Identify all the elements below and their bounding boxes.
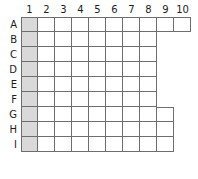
grid-cell-H3[interactable] <box>55 122 72 137</box>
grid-cell-H4[interactable] <box>72 122 89 137</box>
grid-cell-G2[interactable] <box>38 107 55 122</box>
grid-cell-A7[interactable] <box>123 17 140 32</box>
grid-cell-D7[interactable] <box>123 62 140 77</box>
grid-row-E <box>21 77 157 92</box>
grid-cell-C1[interactable] <box>21 47 38 62</box>
grid-cell-C4[interactable] <box>72 47 89 62</box>
column-header-1: 1 <box>21 4 38 16</box>
row-label-G: G <box>0 107 17 122</box>
grid-cell-C7[interactable] <box>123 47 140 62</box>
grid-cell-H2[interactable] <box>38 122 55 137</box>
grid-cell-F6[interactable] <box>106 92 123 107</box>
row-label-E: E <box>0 77 17 92</box>
grid-cell-H1[interactable] <box>21 122 38 137</box>
grid-cell-I2[interactable] <box>38 137 55 152</box>
row-label-I: I <box>0 137 17 152</box>
row-label-D: D <box>0 62 17 77</box>
column-header-4: 4 <box>72 4 89 16</box>
grid-cell-I7[interactable] <box>123 137 140 152</box>
grid-cell-B4[interactable] <box>72 32 89 47</box>
grid-cell-F5[interactable] <box>89 92 106 107</box>
row-label-H: H <box>0 122 17 137</box>
grid-cell-I3[interactable] <box>55 137 72 152</box>
grid-cell-A1[interactable] <box>21 17 38 32</box>
grid-cell-D5[interactable] <box>89 62 106 77</box>
grid-cell-G4[interactable] <box>72 107 89 122</box>
row-label-B: B <box>0 32 17 47</box>
grid-cell-G3[interactable] <box>55 107 72 122</box>
grid-cell-I8[interactable] <box>140 137 157 152</box>
grid-cell-A10[interactable] <box>174 17 191 32</box>
grid-cell-I1[interactable] <box>21 137 38 152</box>
grid-cell-B7[interactable] <box>123 32 140 47</box>
grid-cell-A8[interactable] <box>140 17 157 32</box>
grid-cell-I4[interactable] <box>72 137 89 152</box>
grid-cell-A5[interactable] <box>89 17 106 32</box>
grid-cell-C2[interactable] <box>38 47 55 62</box>
grid-cell-H8[interactable] <box>140 122 157 137</box>
grid-row-D <box>21 62 157 77</box>
grid-cell-F1[interactable] <box>21 92 38 107</box>
grid-cell-G5[interactable] <box>89 107 106 122</box>
grid-cell-B2[interactable] <box>38 32 55 47</box>
row-label-C: C <box>0 47 17 62</box>
grid-cell-H5[interactable] <box>89 122 106 137</box>
grid-cell-C3[interactable] <box>55 47 72 62</box>
column-header-7: 7 <box>123 4 140 16</box>
grid-cell-G1[interactable] <box>21 107 38 122</box>
grid-cell-H7[interactable] <box>123 122 140 137</box>
grid-cell-B3[interactable] <box>55 32 72 47</box>
grid-cell-G8[interactable] <box>140 107 157 122</box>
grid-cell-I6[interactable] <box>106 137 123 152</box>
grid-cell-C8[interactable] <box>140 47 157 62</box>
grid-cell-H6[interactable] <box>106 122 123 137</box>
grid-cell-E8[interactable] <box>140 77 157 92</box>
grid-cell-D3[interactable] <box>55 62 72 77</box>
grid-cell-D1[interactable] <box>21 62 38 77</box>
grid-cell-G6[interactable] <box>106 107 123 122</box>
grid-cell-D8[interactable] <box>140 62 157 77</box>
grid-cell-B1[interactable] <box>21 32 38 47</box>
column-header-9: 9 <box>157 4 174 16</box>
row-label-A: A <box>0 17 17 32</box>
column-header-2: 2 <box>38 4 55 16</box>
grid-cell-A2[interactable] <box>38 17 55 32</box>
row-label-column: ABCDEFGHI <box>0 0 19 179</box>
grid-cell-C6[interactable] <box>106 47 123 62</box>
grid-cell-A9[interactable] <box>157 17 174 32</box>
grid-cell-F2[interactable] <box>38 92 55 107</box>
row-label-F: F <box>0 92 17 107</box>
grid-cell-G9[interactable] <box>157 107 174 122</box>
grid-row-G <box>21 107 174 122</box>
grid-cell-A3[interactable] <box>55 17 72 32</box>
grid-cell-E2[interactable] <box>38 77 55 92</box>
grid-cell-B6[interactable] <box>106 32 123 47</box>
grid-cell-A6[interactable] <box>106 17 123 32</box>
grid-cell-H9[interactable] <box>157 122 174 137</box>
grid-cell-B8[interactable] <box>140 32 157 47</box>
grid-cell-I9[interactable] <box>157 137 174 152</box>
grid-cell-G7[interactable] <box>123 107 140 122</box>
grid-cell-B5[interactable] <box>89 32 106 47</box>
grid-row-I <box>21 137 174 152</box>
column-header-10: 10 <box>174 4 191 16</box>
grid-cell-C5[interactable] <box>89 47 106 62</box>
grid-cell-D6[interactable] <box>106 62 123 77</box>
grid-cell-A4[interactable] <box>72 17 89 32</box>
grid-cell-E6[interactable] <box>106 77 123 92</box>
grid-cell-E7[interactable] <box>123 77 140 92</box>
grid-cell-E4[interactable] <box>72 77 89 92</box>
grid-row-C <box>21 47 157 62</box>
grid-cell-F8[interactable] <box>140 92 157 107</box>
grid-worksheet: 12345678910 ABCDEFGHI <box>0 0 198 179</box>
grid-cell-D2[interactable] <box>38 62 55 77</box>
grid-cell-E1[interactable] <box>21 77 38 92</box>
grid-cell-E5[interactable] <box>89 77 106 92</box>
grid-row-H <box>21 122 174 137</box>
grid-cell-F7[interactable] <box>123 92 140 107</box>
grid-cell-E3[interactable] <box>55 77 72 92</box>
grid-cell-D4[interactable] <box>72 62 89 77</box>
grid-cell-F3[interactable] <box>55 92 72 107</box>
grid-cell-I5[interactable] <box>89 137 106 152</box>
grid-cell-F4[interactable] <box>72 92 89 107</box>
